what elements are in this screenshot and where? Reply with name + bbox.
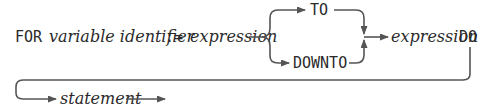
- for-keyword: FOR: [15, 28, 43, 46]
- syntax-diagram: FOR variable identifier := expression TO…: [0, 0, 489, 109]
- downto-merge-path: [349, 40, 364, 63]
- to-branch-path: [262, 10, 305, 37]
- to-merge-path: [334, 10, 364, 34]
- do-keyword: DO: [459, 28, 477, 46]
- downto-keyword: DOWNTO: [293, 54, 347, 72]
- to-keyword: TO: [310, 1, 328, 19]
- assign-operator: :=: [165, 28, 183, 46]
